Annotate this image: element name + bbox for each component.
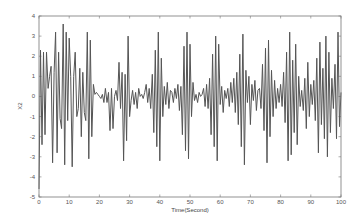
y-tick-label: -5 [30, 194, 36, 200]
y-tick-label: -2 [30, 134, 36, 140]
x-tick-label: 0 [37, 199, 41, 205]
y-tick-label: 1 [32, 73, 36, 79]
x-tick-label: 100 [336, 199, 347, 205]
y-tick-label: -1 [30, 114, 36, 120]
y-tick-label: 2 [32, 53, 36, 59]
y-tick-label: -3 [30, 154, 36, 160]
x-tick-label: 50 [187, 199, 194, 205]
x-tick-label: 20 [96, 199, 103, 205]
x-tick-labels: 0102030405060708090100 [37, 199, 346, 205]
x-tick-label: 40 [156, 199, 163, 205]
x-axis-label: Time(Second) [171, 207, 208, 213]
x-tick-label: 60 [217, 199, 224, 205]
x-tick-label: 70 [247, 199, 254, 205]
x-tick-label: 90 [307, 199, 314, 205]
y-tick-labels: 43210-1-2-3-4-5 [30, 13, 36, 200]
line-chart: 43210-1-2-3-4-5 0102030405060708090100 T… [0, 0, 363, 221]
y-tick-label: 4 [32, 13, 36, 19]
x-tick-label: 80 [277, 199, 284, 205]
y-tick-label: 3 [32, 33, 36, 39]
x-tick-label: 10 [66, 199, 73, 205]
y-axis-label: X2 [17, 102, 23, 110]
x-tick-label: 30 [126, 199, 133, 205]
y-tick-label: 0 [32, 93, 36, 99]
y-tick-label: -4 [30, 174, 36, 180]
